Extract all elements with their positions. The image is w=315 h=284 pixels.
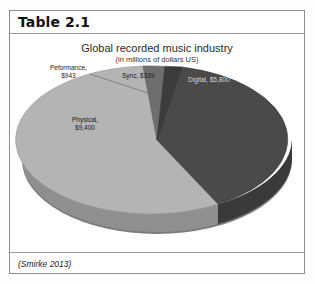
figure-citation: (Smirke 2013) xyxy=(18,259,71,269)
figure-header-label: Table 2.1 xyxy=(18,14,90,30)
pie-label-physical: Physical, $9,400 xyxy=(72,116,98,132)
pie-chart: Global recorded music industry (in milli… xyxy=(10,34,304,252)
pie-label-performance: Peformance, $943 xyxy=(50,64,87,80)
pie-label-digital: Digital, $5,800 xyxy=(188,76,230,84)
pie-label-physical-line1: Physical, xyxy=(72,116,98,124)
pie-label-physical-line2: $9,400 xyxy=(72,124,98,132)
pie-label-sync-line1: Sync, $339 xyxy=(122,72,155,80)
pie-label-sync: Sync, $339 xyxy=(122,72,155,80)
pie-label-performance-line2: $943 xyxy=(50,72,87,80)
figure-footer: (Smirke 2013) xyxy=(10,253,304,274)
pie-label-digital-line1: Digital, $5,800 xyxy=(188,76,230,84)
pie-label-performance-line1: Peformance, xyxy=(50,64,87,72)
figure-box: Table 2.1 Global recorded music industry… xyxy=(9,10,305,274)
figure-header: Table 2.1 xyxy=(10,11,304,33)
